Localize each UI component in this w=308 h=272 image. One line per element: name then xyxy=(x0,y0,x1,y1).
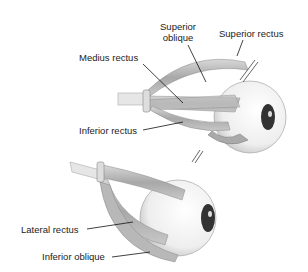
label-medius-rectus: Medius rectus xyxy=(79,52,138,63)
label-superior-oblique-line1: Superior xyxy=(155,21,201,32)
label-superior-rectus: Superior rectus xyxy=(219,28,283,39)
label-superior-oblique: Superior oblique xyxy=(155,21,201,43)
eye-muscles-diagram: Superior oblique Superior rectus Medius … xyxy=(0,0,308,272)
bottom-eye xyxy=(70,150,216,262)
label-inferior-rectus: Inferior rectus xyxy=(79,125,137,136)
label-inferior-oblique: Inferior oblique xyxy=(42,251,105,262)
label-lateral-rectus: Lateral rectus xyxy=(21,224,79,235)
label-superior-oblique-line2: oblique xyxy=(155,32,201,43)
